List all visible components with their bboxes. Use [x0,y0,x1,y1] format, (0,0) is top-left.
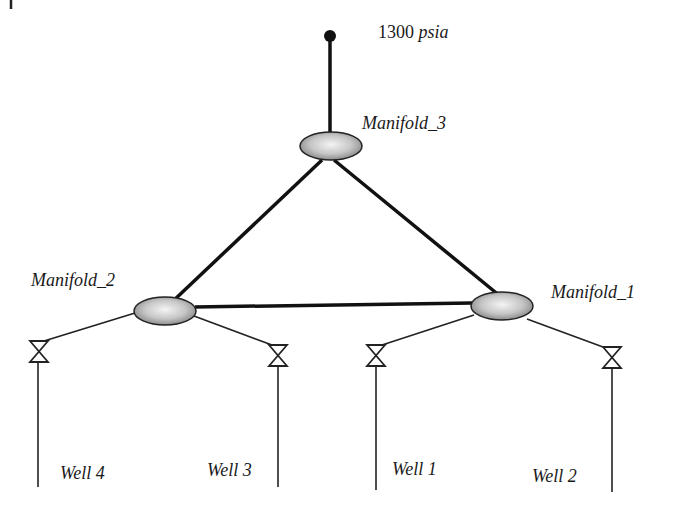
pipe-m2-m1 [195,303,472,307]
pipe-m3-m2 [172,160,322,302]
valve-icon [367,345,385,366]
trunk-lines [172,160,500,307]
valve-icon [269,345,287,366]
branch-m1-w2 [527,319,603,347]
pipe-m3-m1 [334,160,500,296]
manifold-2-label: Manifold_2 [31,270,115,291]
branch-m1-w1 [382,315,474,345]
valve-w4 [30,341,48,362]
well-3-label: Well 3 [207,460,252,481]
well-2-label: Well 2 [532,466,577,487]
well-4-label: Well 4 [60,463,105,484]
pressure-unit: psia [419,22,449,42]
source-node [324,30,336,136]
valve-w1 [367,345,385,366]
manifold-3-node [300,132,362,160]
manifold-3-label: Manifold_3 [362,113,446,134]
valve-icon [603,347,621,368]
manifold-1-label: Manifold_1 [551,282,635,303]
branch-m2-w3 [194,316,272,345]
source-point-icon [324,30,336,42]
manifold-2-node [134,297,196,325]
valve-w3 [269,345,287,366]
valve-icon [30,341,48,362]
well-1-label: Well 1 [392,459,437,480]
branch-m2-w4 [44,313,135,341]
network-diagram [0,0,681,511]
pressure-value: 1300 [378,22,414,42]
manifold-1-node [471,292,533,320]
source-pressure-label: 1300 psia [378,22,449,43]
well-lines [38,313,612,492]
valve-w2 [603,347,621,368]
